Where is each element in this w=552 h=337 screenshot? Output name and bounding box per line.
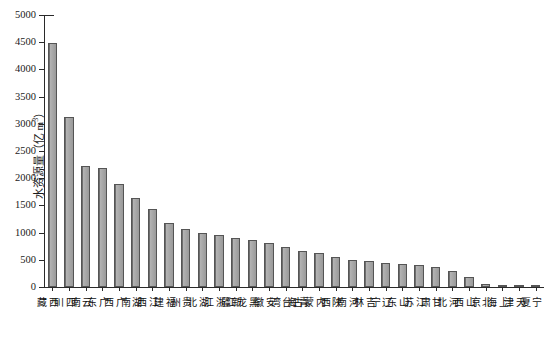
y-axis-tick-label: 2500 — [2, 146, 36, 157]
y-axis-tick — [39, 233, 44, 234]
bar — [364, 261, 374, 287]
bar — [114, 184, 124, 287]
y-axis-tick — [39, 178, 44, 179]
bar — [164, 223, 174, 287]
y-axis-tick — [39, 42, 44, 43]
bar — [264, 243, 274, 287]
x-axis-tick — [169, 287, 170, 291]
y-axis-tick — [39, 15, 44, 16]
x-axis-tick — [319, 287, 320, 291]
x-axis-tick-label: 宁夏 — [530, 297, 542, 308]
water-resources-bar-chart: 水资源量（亿 m3） 05001000150020002500300035004… — [0, 0, 552, 337]
x-axis-tick — [402, 287, 403, 291]
x-axis-tick — [386, 287, 387, 291]
bar — [331, 257, 341, 287]
x-axis-tick — [469, 287, 470, 291]
y-axis-tick-label: 3000 — [2, 119, 36, 130]
bar — [48, 43, 58, 287]
x-axis-tick — [269, 287, 270, 291]
y-axis-tick — [39, 260, 44, 261]
bar — [464, 277, 474, 287]
y-axis-tick-label: 4500 — [2, 37, 36, 48]
x-axis-tick — [286, 287, 287, 291]
x-axis-tick — [102, 287, 103, 291]
bar — [314, 253, 324, 287]
bar — [64, 117, 74, 287]
bar — [348, 260, 358, 287]
bar — [398, 264, 408, 287]
y-axis-tick-label: 0 — [2, 282, 36, 293]
x-axis-tick — [536, 287, 537, 291]
bar — [148, 209, 158, 287]
x-axis-tick — [486, 287, 487, 291]
x-axis-tick — [52, 287, 53, 291]
x-axis-tick — [419, 287, 420, 291]
bar — [448, 271, 458, 287]
bar — [98, 168, 108, 287]
x-axis-tick — [186, 287, 187, 291]
y-axis-tick-label: 500 — [2, 255, 36, 266]
y-axis-tick — [39, 69, 44, 70]
x-axis-tick — [86, 287, 87, 291]
bar — [248, 240, 258, 287]
x-axis-tick — [336, 287, 337, 291]
plot-area: 0500100015002000250030003500400045005000… — [44, 15, 544, 287]
bar — [381, 263, 391, 287]
bar — [431, 267, 441, 287]
bar — [214, 235, 224, 287]
bar — [198, 233, 208, 287]
y-axis-tick-label: 2000 — [2, 173, 36, 184]
x-axis-tick — [219, 287, 220, 291]
x-axis-tick — [502, 287, 503, 291]
x-axis-tick — [119, 287, 120, 291]
y-axis-line — [44, 15, 45, 287]
x-axis-tick — [252, 287, 253, 291]
x-axis-tick — [352, 287, 353, 291]
y-axis-tick — [39, 124, 44, 125]
y-axis-tick-label: 4000 — [2, 64, 36, 75]
y-axis-tick-label: 5000 — [2, 10, 36, 21]
x-axis-tick — [136, 287, 137, 291]
bar — [181, 229, 191, 287]
bar — [414, 265, 424, 287]
x-axis-tick — [452, 287, 453, 291]
bar — [281, 247, 291, 287]
x-axis-tick — [69, 287, 70, 291]
y-axis-tick-label: 1500 — [2, 200, 36, 211]
bar — [131, 198, 141, 287]
bar — [81, 166, 91, 287]
y-axis-tick-label: 3500 — [2, 92, 36, 103]
y-axis-tick — [39, 287, 44, 288]
plot-frame-top-stub — [44, 15, 54, 16]
bar — [231, 238, 241, 287]
x-axis-tick — [519, 287, 520, 291]
x-axis-tick — [302, 287, 303, 291]
x-axis-tick — [152, 287, 153, 291]
x-axis-tick — [436, 287, 437, 291]
y-axis-tick — [39, 97, 44, 98]
bar — [298, 251, 308, 287]
y-axis-tick — [39, 205, 44, 206]
x-axis-tick — [202, 287, 203, 291]
y-axis-tick-label: 1000 — [2, 228, 36, 239]
x-axis-tick — [369, 287, 370, 291]
y-axis-tick — [39, 151, 44, 152]
x-axis-tick — [236, 287, 237, 291]
